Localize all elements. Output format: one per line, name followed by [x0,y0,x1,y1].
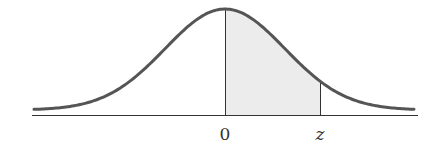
tick-label-z: z [315,124,326,144]
shaded-area [226,9,321,116]
tick-label-zero: 0 [220,124,231,144]
normal-curve-figure: 0 z [0,0,446,155]
density-curve [34,9,414,109]
